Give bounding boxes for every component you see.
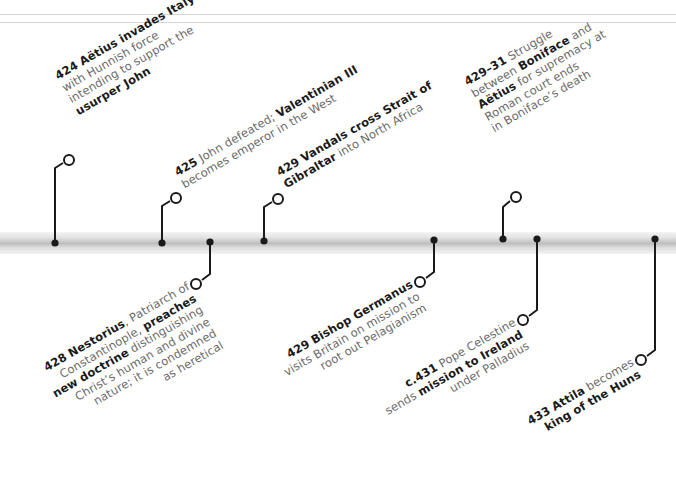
bar-node-icon	[499, 235, 506, 242]
connector-429-germanus	[415, 240, 434, 287]
bar-node-icon	[158, 239, 165, 246]
bar-node-icon	[206, 238, 213, 245]
event-marker-icon	[171, 193, 181, 203]
connector-c431	[518, 239, 537, 325]
event-marker-icon	[518, 315, 528, 325]
bar-node-icon	[533, 235, 540, 242]
event-marker-icon	[273, 194, 283, 204]
event-marker-icon	[636, 355, 646, 365]
event-marker-icon	[64, 155, 74, 165]
connector-429-31	[503, 192, 521, 239]
connector-424	[55, 155, 74, 243]
connector-428	[191, 242, 210, 289]
event-marker-icon	[415, 277, 425, 287]
connector-425	[162, 193, 181, 243]
event-marker-icon	[191, 279, 201, 289]
bar-node-icon	[51, 239, 58, 246]
connector-429-vandals	[264, 194, 283, 241]
bar-node-icon	[651, 235, 658, 242]
event-marker-icon	[511, 192, 521, 202]
bar-node-icon	[260, 237, 267, 244]
bar-node-icon	[430, 236, 437, 243]
connector-433	[636, 239, 655, 365]
